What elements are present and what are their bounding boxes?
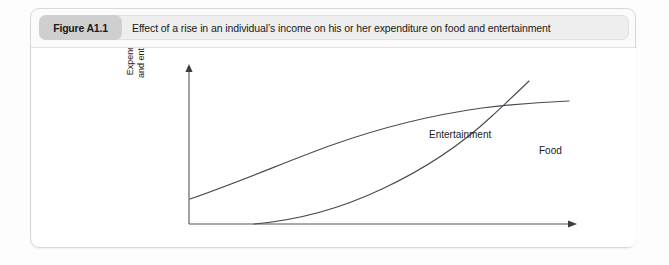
figure-caption-bar: Figure A1.1 Effect of a rise in an indiv… (31, 9, 637, 47)
curve-label-entertainment: Entertainment (429, 129, 491, 140)
y-axis (185, 64, 192, 224)
y-axis-label-line1: Expenditure on food (125, 48, 136, 110)
curve-food (190, 101, 569, 199)
y-axis-label: Expenditure on food and entertainment (£… (125, 48, 147, 110)
y-axis-label-line2: and entertainment (£) (136, 48, 147, 110)
x-axis (189, 220, 577, 227)
figure-caption-text: Effect of a rise in an individual’s inco… (132, 15, 551, 40)
figure-number-badge: Figure A1.1 (39, 15, 122, 40)
curve-entertainment (254, 81, 529, 224)
curve-label-food: Food (539, 145, 562, 156)
figure-panel: Figure A1.1 Effect of a rise in an indiv… (30, 8, 636, 248)
figure-page: Figure A1.1 Effect of a rise in an indiv… (0, 0, 669, 265)
chart-plot-area: Expenditure on food and entertainment (£… (32, 48, 636, 247)
figure-number-label: Figure A1.1 (53, 22, 108, 34)
